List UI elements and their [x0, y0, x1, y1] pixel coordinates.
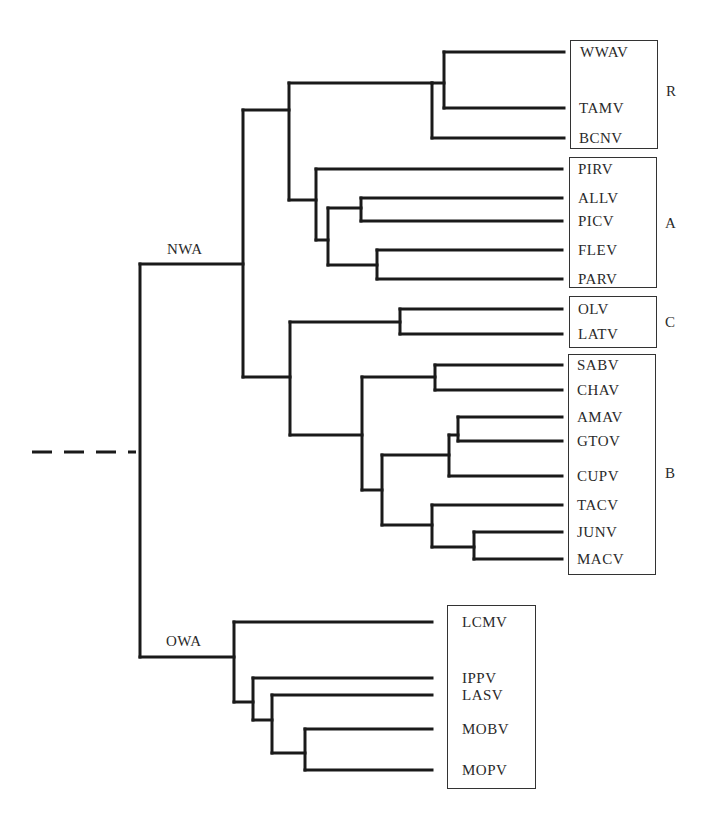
group-label-a: A	[665, 216, 676, 231]
leaf-lasv: LASV	[462, 688, 503, 703]
leaf-pirv: PIRV	[578, 162, 613, 177]
leaf-latv: LATV	[578, 327, 618, 342]
group-label-c: C	[665, 315, 676, 330]
clade-label-nwa: NWA	[167, 242, 203, 257]
leaf-cupv: CUPV	[577, 469, 619, 484]
leaf-chav: CHAV	[577, 383, 620, 398]
clade-label-owa: OWA	[166, 634, 202, 649]
leaf-sabv: SABV	[577, 358, 619, 373]
leaf-mopv: MOPV	[462, 763, 507, 778]
leaf-gtov: GTOV	[577, 434, 620, 449]
leaf-junv: JUNV	[577, 525, 617, 540]
leaf-bcnv: BCNV	[579, 131, 623, 146]
leaf-amav: AMAV	[577, 410, 623, 425]
leaf-picv: PICV	[578, 214, 614, 229]
leaf-lcmv: LCMV	[462, 615, 507, 630]
leaf-tacv: TACV	[577, 498, 619, 513]
leaf-flev: FLEV	[578, 243, 618, 258]
leaf-allv: ALLV	[578, 191, 619, 206]
leaf-mobv: MOBV	[462, 722, 509, 737]
leaf-tamv: TAMV	[579, 101, 624, 116]
leaf-parv: PARV	[578, 272, 617, 287]
leaf-olv: OLV	[578, 302, 609, 317]
leaf-wwav: WWAV	[580, 45, 628, 60]
group-label-b: B	[665, 466, 676, 481]
leaf-macv: MACV	[577, 552, 624, 567]
leaf-ippv: IPPV	[462, 671, 497, 686]
group-label-r: R	[666, 84, 677, 99]
